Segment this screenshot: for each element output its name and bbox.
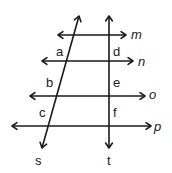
line-label-m: m bbox=[131, 27, 142, 42]
transversal-label-t: t bbox=[107, 153, 111, 168]
transversal-label-s: s bbox=[35, 153, 42, 168]
segment-label-b: b bbox=[46, 75, 53, 90]
segment-label-e: e bbox=[113, 75, 120, 90]
segment-label-d: d bbox=[113, 44, 120, 59]
parallel-lines-diagram: mnopstabcdef bbox=[0, 0, 172, 173]
segment-label-f: f bbox=[113, 105, 117, 120]
line-label-p: p bbox=[153, 119, 161, 134]
segment-label-c: c bbox=[39, 105, 46, 120]
line-label-o: o bbox=[149, 87, 156, 102]
line-label-n: n bbox=[138, 54, 145, 69]
segment-label-a: a bbox=[56, 44, 64, 59]
